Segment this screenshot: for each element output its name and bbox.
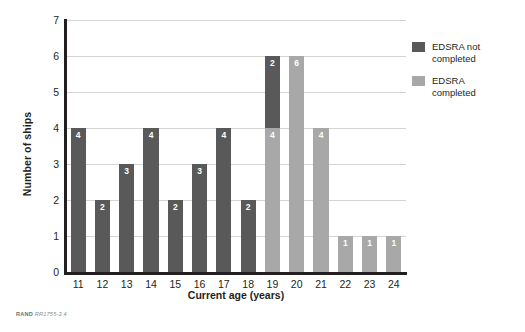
bar-column: 4 <box>216 20 231 272</box>
bar-segment: 4 <box>143 128 158 272</box>
bar-segment: 2 <box>241 200 256 272</box>
bar-column: 4 <box>143 20 158 272</box>
legend-color-swatch <box>412 42 425 52</box>
legend-color-swatch <box>412 76 425 86</box>
bar-column: 3 <box>119 20 134 272</box>
bar-segment: 1 <box>386 236 401 272</box>
bar-column: 2 <box>95 20 110 272</box>
bar-segment: 3 <box>119 164 134 272</box>
bar-segment: 4 <box>313 128 328 272</box>
bar-value-label: 4 <box>216 131 231 140</box>
bar-value-label: 2 <box>168 203 183 212</box>
bar-value-label: 1 <box>386 239 401 248</box>
y-axis-title: Number of ships <box>21 64 33 244</box>
bar-column: 1 <box>338 20 353 272</box>
y-axis-tick-label: 1 <box>44 231 59 242</box>
bar-value-label: 4 <box>265 131 280 140</box>
bar-segment: 2 <box>168 200 183 272</box>
bar-column: 1 <box>386 20 401 272</box>
bar-series-group: 423423424264111 <box>66 20 406 272</box>
bar-value-label: 3 <box>119 167 134 176</box>
bar-value-label: 3 <box>192 167 207 176</box>
legend-label-line: completed <box>432 87 520 99</box>
bar-segment: 2 <box>265 56 280 128</box>
bar-segment: 3 <box>192 164 207 272</box>
bar-segment: 2 <box>95 200 110 272</box>
bar-value-label: 4 <box>313 131 328 140</box>
bar-segment: 4 <box>216 128 231 272</box>
bar-value-label: 2 <box>95 203 110 212</box>
bar-column: 3 <box>192 20 207 272</box>
bar-value-label: 4 <box>143 131 158 140</box>
x-axis-title: Current age (years) <box>66 289 406 301</box>
bar-value-label: 2 <box>265 59 280 68</box>
legend-label-line: EDSRA <box>432 75 520 87</box>
legend-label: EDSRAcompleted <box>432 75 520 98</box>
bar-segment: 1 <box>338 236 353 272</box>
credit-brand: RAND <box>16 311 33 317</box>
y-axis-tick-label: 6 <box>44 51 59 62</box>
bar-segment: 1 <box>362 236 377 272</box>
figure-stacked-bar-chart: Number of ships 01234567 423423424264111… <box>0 0 525 332</box>
y-axis-tick-label: 5 <box>44 87 59 98</box>
chart-legend: EDSRA notcompletedEDSRAcompleted <box>412 41 520 109</box>
bar-column: 6 <box>289 20 304 272</box>
y-axis-tick-label: 0 <box>44 267 59 278</box>
bar-segment: 4 <box>71 128 86 272</box>
bar-column: 2 <box>241 20 256 272</box>
credit-id: RR1755-3.4 <box>35 311 67 317</box>
bar-value-label: 6 <box>289 59 304 68</box>
plot-area: 01234567 423423424264111 111213141516171… <box>66 20 406 272</box>
bar-segment: 4 <box>265 128 280 272</box>
legend-label-line: completed <box>432 53 520 65</box>
bar-column: 2 <box>168 20 183 272</box>
bar-value-label: 1 <box>338 239 353 248</box>
y-axis-tick-label: 2 <box>44 195 59 206</box>
legend-label: EDSRA notcompleted <box>432 41 520 64</box>
bar-value-label: 4 <box>71 131 86 140</box>
y-axis-tick-label: 3 <box>44 159 59 170</box>
bar-column: 4 <box>313 20 328 272</box>
legend-item: EDSRAcompleted <box>412 75 520 99</box>
y-axis-tick-label: 4 <box>44 123 59 134</box>
bar-value-label: 2 <box>241 203 256 212</box>
bar-column: 42 <box>265 20 280 272</box>
bar-column: 4 <box>71 20 86 272</box>
legend-item: EDSRA notcompleted <box>412 41 520 65</box>
figure-credit: RAND RR1755-3.4 <box>16 311 67 317</box>
legend-label-line: EDSRA not <box>432 41 520 53</box>
x-axis-line <box>64 272 407 275</box>
bar-segment: 6 <box>289 56 304 272</box>
bar-value-label: 1 <box>362 239 377 248</box>
bar-column: 1 <box>362 20 377 272</box>
y-axis-tick-label: 7 <box>44 15 59 26</box>
